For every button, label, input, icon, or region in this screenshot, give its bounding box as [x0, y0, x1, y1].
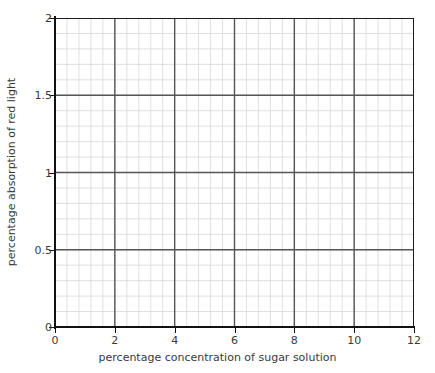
y-tick-label: 2 [45, 12, 52, 25]
x-tick-mark [115, 328, 116, 333]
x-tick-label: 12 [407, 334, 421, 347]
x-tick-mark [414, 328, 415, 333]
x-tick-mark [55, 328, 56, 333]
y-axis-title: percentage absorption of red light [5, 78, 18, 266]
plot-frame-right [413, 18, 414, 327]
grid-layer [55, 18, 414, 327]
x-tick-mark [354, 328, 355, 333]
plot-area [55, 18, 414, 327]
y-axis-line [54, 16, 56, 329]
y-tick-label: 0 [45, 321, 52, 334]
x-tick-label: 8 [291, 334, 298, 347]
x-tick-label: 10 [347, 334, 361, 347]
x-tick-label: 2 [111, 334, 118, 347]
x-tick-label: 0 [52, 334, 59, 347]
plot-frame-top [55, 18, 414, 19]
y-tick-label: 1 [45, 166, 52, 179]
y-tick-label: 0.5 [35, 243, 53, 256]
x-tick-mark [235, 328, 236, 333]
x-tick-label: 6 [231, 334, 238, 347]
y-tick-label: 1.5 [35, 89, 53, 102]
x-tick-mark [175, 328, 176, 333]
x-tick-label: 4 [171, 334, 178, 347]
chart-container: 024681012 00.511.52 percentage concentra… [0, 0, 435, 373]
x-tick-mark [294, 328, 295, 333]
x-axis-title: percentage concentration of sugar soluti… [0, 351, 435, 364]
